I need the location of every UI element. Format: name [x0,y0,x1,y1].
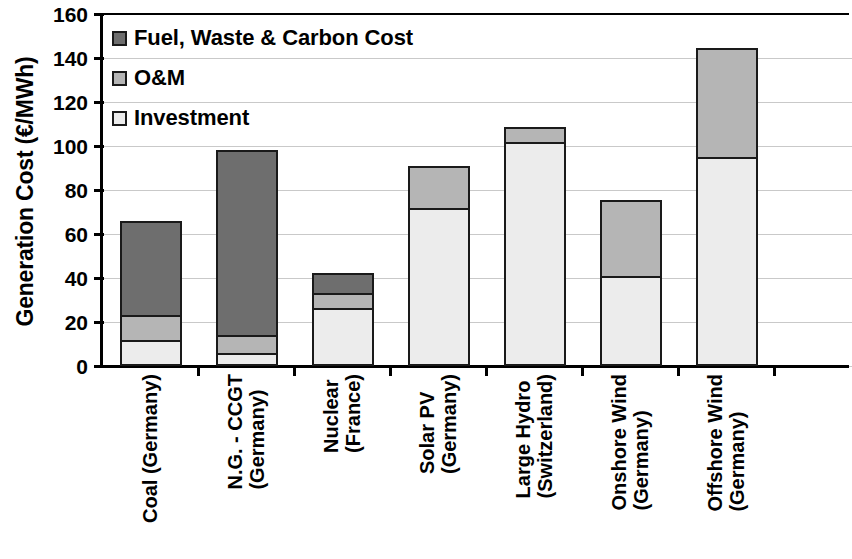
y-axis-tick-label: 120 [30,92,88,113]
category-label-line1: Solar PV [416,392,438,474]
category-label-line1: Offshore Wind [704,374,726,512]
stacked-bar[interactable] [600,200,662,366]
x-axis-category-label: Coal (Germany) [103,366,199,559]
category-label-line2: (Germany) [439,374,461,474]
category-label-text: Solar PV(Germany) [417,374,460,474]
legend-label: Investment [134,105,249,131]
category-label-line2: (Germany) [247,374,269,490]
bar-segment-om [408,166,470,208]
bar-segment-om [120,315,182,339]
category-label-text: Offshore Wind(Germany) [705,374,748,512]
stacked-bar[interactable] [696,48,758,366]
y-axis-tick-label: 80 [30,180,88,201]
legend-item[interactable]: O&M [112,58,442,98]
legend-swatch-invest [112,111,127,126]
category-label-line2: (Switzerland) [535,374,557,498]
bar-segment-fuel [120,221,182,316]
x-axis-category-label: Nuclear(France) [295,366,391,559]
legend-label: O&M [134,65,185,91]
y-axis-tick-labels: 160140120100806040200 [30,0,88,559]
stacked-bar[interactable] [312,273,374,366]
category-label-text: Large Hydro(Switzerland) [513,374,556,498]
bar-segment-invest [312,308,374,366]
bar-group [679,0,775,366]
x-axis-category-label: Solar PV(Germany) [391,366,487,559]
bar-segment-om [600,200,662,276]
x-axis-category-label: N.G. - CCGT(Germany) [199,366,295,559]
bar-segment-fuel [216,150,278,335]
category-label-line1: Onshore Wind [608,374,630,510]
category-label-line2: (Germany) [631,374,653,510]
category-label-text: N.G. - CCGT(Germany) [225,374,268,490]
category-label-line1: Large Hydro [512,381,534,499]
bar-segment-om [504,127,566,141]
category-label-line1: N.G. - CCGT [224,374,246,490]
legend-swatch-om [112,71,127,86]
y-axis-tick-label: 20 [30,312,88,333]
bar-segment-om [696,48,758,157]
legend-item[interactable]: Fuel, Waste & Carbon Cost [112,18,442,58]
y-axis-tick-label: 100 [30,136,88,157]
bar-group [583,0,679,366]
category-label-text: Onshore Wind(Germany) [609,374,652,510]
bar-segment-invest [408,208,470,366]
bar-segment-invest [696,157,758,366]
x-axis-category-label: Large Hydro(Switzerland) [487,366,583,559]
y-axis-tick-label: 60 [30,224,88,245]
y-axis-tick-label: 0 [30,356,88,377]
category-label-line2: (Germany) [727,374,749,512]
bar-segment-invest [600,276,662,366]
legend-label: Fuel, Waste & Carbon Cost [134,25,413,51]
category-label-text: Nuclear(France) [321,374,364,453]
legend-item[interactable]: Investment [112,98,442,138]
category-label-text: Coal (Germany) [140,374,162,523]
bar-segment-invest [216,353,278,366]
bar-segment-invest [120,340,182,366]
y-axis-tick-label: 140 [30,48,88,69]
stacked-bar[interactable] [120,221,182,366]
x-axis-category-label: Onshore Wind(Germany) [583,366,679,559]
stacked-bar[interactable] [504,127,566,366]
bar-segment-invest [504,142,566,366]
bar-segment-fuel [312,273,374,294]
y-axis-tick-label: 160 [30,4,88,25]
bar-segment-om [312,293,374,307]
x-axis-category-label: Offshore Wind(Germany) [679,366,775,559]
x-axis-category-labels: Coal (Germany)N.G. - CCGT(Germany)Nuclea… [100,366,849,559]
stacked-bar[interactable] [408,166,470,366]
category-label-line2: (France) [343,374,365,453]
category-label-line1: Coal (Germany) [139,374,161,523]
category-label-line1: Nuclear [320,380,342,453]
y-axis-tick-label: 40 [30,268,88,289]
bar-group [487,0,583,366]
chart-legend: Fuel, Waste & Carbon CostO&MInvestment [112,18,442,138]
legend-swatch-fuel [112,31,127,46]
bar-segment-om [216,335,278,353]
stacked-bar[interactable] [216,150,278,366]
